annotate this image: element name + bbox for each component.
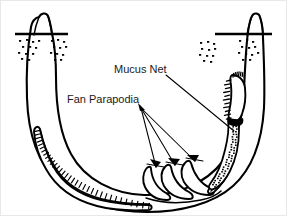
mucus-net-dot-3 [232,126,234,128]
mucus-net-dot-29 [226,159,228,161]
sediment-dot-right-7 [206,55,208,57]
mucus-net-dot-25 [228,154,230,156]
mucus-net-dot-23 [229,152,231,154]
mucus-net-dot-22 [233,152,235,154]
sediment-dot-right-8 [212,55,214,57]
mucus-net-dot-43 [218,176,220,178]
mucus-net-dot-18 [233,147,235,149]
mucus-net-dot-30 [228,163,230,165]
sediment-dot-left-6 [35,47,37,49]
sediment-dot-left-14 [63,41,65,43]
sediment-dot-left-13 [57,39,59,41]
worm-head-fringe-2 [237,72,238,76]
sediment-dot-left-3 [38,40,40,42]
mucus-net-dot-9 [233,134,235,136]
sediment-dot-right-9 [203,60,205,62]
sediment-dot-left-9 [32,53,34,55]
mucus-net-dot-10 [236,136,238,138]
sediment-dot-right-20 [242,59,244,61]
sediment-dot-right-21 [249,59,251,61]
mucus-net-dot-15 [232,141,234,143]
worm-seta-4 [225,95,230,96]
sediment-dot-right-19 [251,54,253,56]
sediment-dot-right-12 [246,39,248,41]
worm-seta-2 [225,88,230,89]
worm-head-fringe-4 [240,72,241,76]
worm-head-fringe-6 [244,73,245,77]
mucus-net-dot-8 [236,134,238,136]
mucus-net-dot-40 [223,175,225,177]
sediment-dot-left-20 [62,54,64,56]
mucus-net-dot-41 [219,173,221,175]
sediment-dot-left-19 [56,53,58,55]
sediment-dot-right-4 [208,49,210,51]
sediment-dot-left-17 [65,46,67,48]
mucus-net-dot-20 [233,150,235,152]
sediment-dot-right-11 [239,40,241,42]
sediment-dot-right-17 [238,52,240,54]
sediment-dot-left-18 [50,52,52,54]
mucus-net-dot-14 [235,142,237,144]
mucus-net-dot-4 [236,128,238,130]
sediment-dot-right-22 [257,52,259,54]
sediment-dot-right-5 [214,48,216,50]
mucus-net-dot-28 [230,160,232,162]
worm-seta-1 [225,84,231,85]
sediment-dot-left-7 [18,52,20,54]
sediment-dot-left-4 [22,46,24,48]
sediment-dot-left-16 [59,47,61,49]
mucus-net-leader-line [166,75,234,131]
mucus-net-dot-44 [219,180,221,182]
mucus-net-dot-51 [212,184,214,186]
mucus-net-dot-37 [222,169,224,171]
sediment-dot-left-1 [26,39,28,41]
mucus-net-dot-21 [230,149,232,151]
mucus-net-dot-33 [225,164,227,166]
sediment-dot-left-0 [19,40,21,42]
mucus-net-dot-34 [227,168,229,170]
sediment-dot-right-16 [254,46,256,48]
mucus-net-dot-19 [231,146,233,148]
mucus-net-dot-49 [213,182,215,184]
worm-seta-5 [223,99,229,100]
mucus-net-dot-45 [217,178,219,180]
sediment-dot-right-0 [200,42,202,44]
sediment-dot-right-15 [248,47,250,49]
sediment-dot-left-21 [54,59,56,61]
sediment-dot-right-3 [201,48,203,50]
worm-seta-7 [224,107,230,108]
sediment-dot-left-10 [21,58,23,60]
mucus-net-dot-32 [228,165,230,167]
mucus-net-dot-27 [228,157,230,159]
mucus-net-dot-11 [232,136,234,138]
mucus-net-dot-38 [224,173,226,175]
worm-head-fringe-5 [242,73,243,77]
mucus-net-dot-16 [235,144,237,146]
worm-tube-diagram: Mucus Net Fan Parapodia [1,1,287,216]
text-label-group: Mucus Net Fan Parapodia [67,63,167,105]
mucus-net-dot-35 [223,166,225,168]
worm-head-fringe-1 [235,73,236,77]
sediment-dot-left-12 [51,40,53,42]
mucus-net-dot-6 [235,131,237,133]
sediment-dot-right-13 [252,41,254,43]
mucus-net-dot-36 [225,170,227,172]
mucus-net-dot-31 [226,162,228,164]
worm-seta-6 [225,103,230,104]
mucus-net-dot-50 [214,186,216,188]
mucus-net-dot-17 [231,144,233,146]
sediment-dot-right-18 [245,53,247,55]
sediment-dot-right-6 [199,54,201,56]
sediment-dot-left-11 [28,59,30,61]
figure-container: Mucus Net Fan Parapodia [0,0,287,216]
worm-head-fringe-0 [233,73,234,77]
annotation-leaders [138,75,234,168]
sediment-dot-right-2 [213,43,215,45]
sediment-dot-left-15 [53,46,55,48]
fan-parapodia-leader-1 [141,108,156,167]
mucus-net-dot-12 [235,139,237,141]
sediment-dot-left-22 [60,59,62,61]
sediment-dot-left-8 [25,53,27,55]
sediment-dot-right-1 [207,41,209,43]
worm-neck-band [228,118,243,126]
